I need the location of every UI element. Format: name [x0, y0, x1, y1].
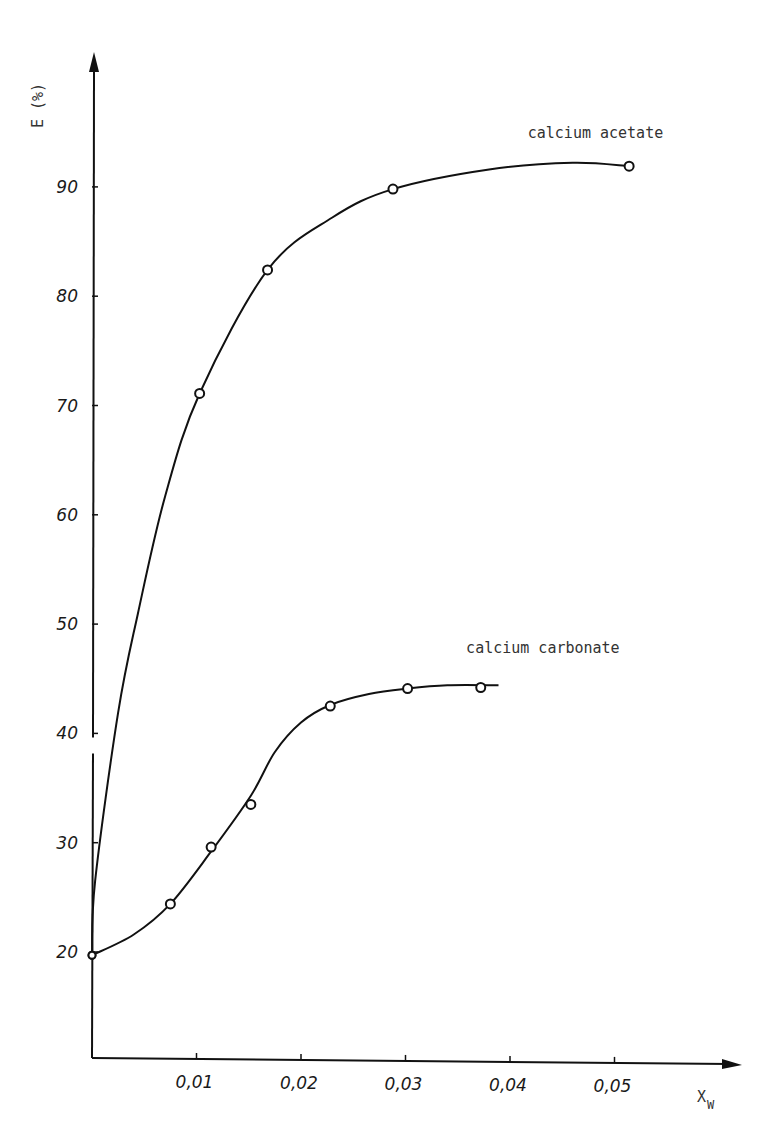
data-point-circle-icon [403, 684, 412, 693]
x-axis-label-subscript: W [707, 1098, 715, 1112]
y-tick-label: 20 [56, 942, 78, 962]
curve-calcium-acetate [92, 163, 629, 955]
y-tick-label: 70 [56, 396, 78, 416]
data-point-circle-icon [166, 899, 175, 908]
data-markers [89, 162, 634, 959]
curves [92, 163, 629, 955]
x-tick-label: 0,05 [594, 1076, 632, 1096]
data-point-circle-icon [195, 389, 204, 398]
y-tick-label: 80 [56, 286, 78, 306]
series-label-calcium-carbonate: calcium carbonate [466, 639, 620, 657]
y-axis-label: E (%) [29, 83, 47, 128]
line-chart: E (%) XW calcium acetate calcium carbona… [0, 0, 781, 1148]
y-tick-label: 60 [56, 505, 78, 525]
x-tick-label: 0,03 [385, 1074, 423, 1094]
y-axis-arrow-icon [89, 52, 99, 72]
labels: E (%) XW calcium acetate calcium carbona… [29, 83, 715, 1112]
x-axis [92, 1058, 730, 1064]
data-point-circle-icon [388, 185, 397, 194]
data-point-circle-icon [207, 843, 216, 852]
data-point-circle-icon [89, 952, 96, 959]
x-axis-label-main: X [697, 1088, 706, 1106]
data-point-circle-icon [246, 800, 255, 809]
x-tick-label: 0,04 [489, 1075, 527, 1095]
x-axis-label: XW [697, 1088, 715, 1112]
y-tick-label: 50 [56, 614, 78, 634]
x-tick-label: 0,02 [280, 1073, 318, 1093]
data-point-circle-icon [263, 265, 272, 274]
tick-marks [92, 187, 615, 1063]
y-tick-label: 40 [56, 723, 78, 743]
y-tick-label: 30 [56, 833, 78, 853]
data-point-circle-icon [326, 702, 335, 711]
x-axis-arrow-icon [722, 1059, 742, 1069]
x-tick-label: 0,01 [176, 1072, 214, 1092]
axes [89, 52, 742, 1069]
series-label-calcium-acetate: calcium acetate [528, 124, 663, 142]
data-point-circle-icon [625, 162, 634, 171]
data-point-circle-icon [476, 683, 485, 692]
curve-calcium-carbonate [92, 685, 499, 955]
y-tick-label: 90 [56, 177, 78, 197]
y-axis-upper [93, 70, 94, 737]
